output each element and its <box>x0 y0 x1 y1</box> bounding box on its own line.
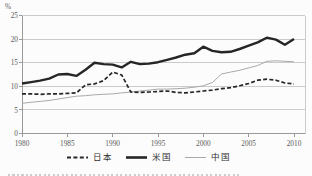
legend-item-japan: 日本 <box>66 153 112 162</box>
legend-item-usa: 米国 <box>125 153 171 162</box>
china-thin-line-swatch <box>184 154 207 161</box>
x-tick-label-2010: 2010 <box>287 139 302 148</box>
series-line-usa <box>22 38 294 84</box>
x-tick-label-1985: 1985 <box>60 139 75 148</box>
x-tick-label-1980: 1980 <box>15 139 30 148</box>
legend-label-usa: 米国 <box>152 153 171 162</box>
x-tick-label-2000: 2000 <box>196 139 211 148</box>
legend-label-china: 中国 <box>211 153 230 162</box>
japan-dashed-line-swatch <box>66 154 89 161</box>
y-tick-label-25: 25 <box>11 11 19 20</box>
line-chart-plot: 05101520251980198519901995200020052010% <box>0 0 312 150</box>
y-tick-label-0: 0 <box>14 129 18 138</box>
clipped-source-note <box>8 174 242 176</box>
chart-figure: 05101520251980198519901995200020052010% … <box>0 0 312 176</box>
y-axis-unit-label: % <box>5 2 11 11</box>
x-tick-label-2005: 2005 <box>241 139 256 148</box>
x-tick-label-1990: 1990 <box>105 139 120 148</box>
usa-solid-line-swatch <box>125 154 148 161</box>
chart-legend: 日本 米国 中国 <box>0 151 304 164</box>
x-tick-label-1995: 1995 <box>151 139 166 148</box>
y-tick-label-20: 20 <box>11 35 19 44</box>
legend-item-china: 中国 <box>184 153 230 162</box>
legend-label-japan: 日本 <box>93 153 112 162</box>
y-tick-label-10: 10 <box>11 82 19 91</box>
y-tick-label-5: 5 <box>14 106 18 115</box>
y-tick-label-15: 15 <box>11 58 19 67</box>
